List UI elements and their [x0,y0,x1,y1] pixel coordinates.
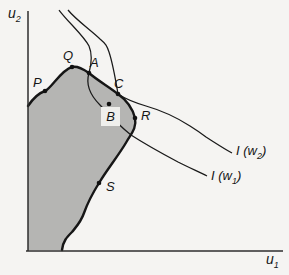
point-label-P: P [33,76,42,89]
x-axis-label: u1 [266,252,279,266]
curve-label-w2: I (w2) [236,144,266,157]
curve-label-w1-base: I (w [211,168,232,183]
point-label-Q: Q [63,49,73,62]
point-label-A: A [90,56,99,69]
point-label-R: R [141,109,150,122]
point-dot-C [116,92,121,97]
y-axis-label-base: u [8,5,16,21]
diagram-canvas [0,0,289,275]
curve-label-w1-close: ) [237,168,241,183]
point-dot-S [97,181,102,186]
point-dot-Q [70,65,75,70]
y-axis-label-sub: 2 [16,14,21,24]
curve-label-w2-base: I (w [236,143,257,158]
utility-possibility-diagram: u2 u1 P Q A C R S B I (w2) I (w1) [0,0,289,275]
y-axis-label: u2 [8,6,21,20]
x-axis-label-base: u [266,251,274,267]
point-dot-A [87,71,92,76]
point-label-C: C [114,77,123,90]
point-label-B: B [101,107,120,126]
curve-label-w2-close: ) [262,143,266,158]
point-dot-P [43,89,48,94]
curve-label-w1: I (w1) [211,169,241,182]
point-label-S: S [106,180,115,193]
x-axis-label-sub: 1 [274,260,279,270]
point-label-B-text: B [106,110,115,123]
point-dot-B [107,102,112,107]
point-dot-R [133,116,138,121]
